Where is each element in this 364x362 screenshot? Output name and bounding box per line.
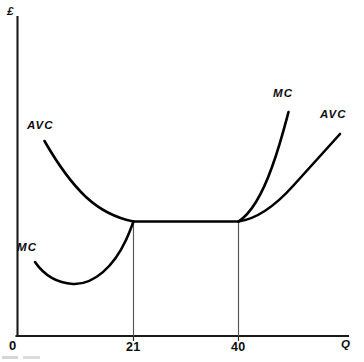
mc-right-label: MC	[273, 88, 293, 100]
avc-left-label: AVC	[27, 120, 54, 132]
avc-curve-right	[239, 134, 341, 222]
avc-right-label: AVC	[320, 109, 347, 121]
scan-edge-artifact	[2, 356, 48, 359]
y-axis-label: £	[7, 6, 14, 18]
x-tick-label-21: 21	[126, 341, 140, 354]
x-tick-label-40: 40	[231, 341, 245, 354]
mc-curve-left	[35, 222, 134, 285]
chart-canvas	[0, 0, 364, 362]
avc-curve-left	[45, 141, 134, 222]
cost-curves-figure: £ Q 0 21 40 AVC MC MC AVC	[0, 0, 364, 362]
x-axis-label: Q	[341, 339, 350, 351]
mc-curve-right	[239, 112, 289, 222]
mc-left-label: MC	[17, 242, 37, 254]
origin-label: 0	[9, 339, 17, 352]
